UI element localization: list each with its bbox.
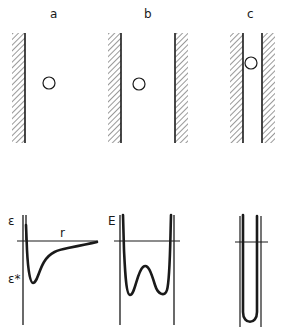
particle-b (133, 78, 145, 90)
minimum-energy-label: ε* (8, 273, 21, 285)
wall-hatch-c-left (230, 33, 243, 143)
panel-label-b: b (144, 8, 152, 20)
potential-graph-a (17, 215, 98, 325)
potential-graph-c (235, 215, 268, 327)
energy-label-a: ε (8, 215, 15, 227)
panel-a-walls (12, 33, 121, 143)
pore-potential-diagram (0, 0, 282, 336)
wall-hatch-c-right (262, 33, 275, 143)
energy-label-b: E (108, 215, 116, 227)
potential-graph-b (114, 215, 180, 325)
panel-b-walls (133, 33, 188, 143)
wall-hatch-a-right (108, 33, 121, 143)
panel-label-a: a (50, 8, 57, 20)
wall-hatch-b-right (175, 33, 188, 143)
panel-label-c: c (247, 8, 254, 20)
distance-label-r: r (60, 227, 65, 239)
particle-c (245, 57, 257, 69)
panel-c-walls (230, 33, 275, 143)
particle-a (43, 77, 55, 89)
wall-hatch-a-left (12, 33, 25, 143)
potential-curve-c (243, 215, 257, 322)
potential-curve-b (123, 215, 171, 295)
